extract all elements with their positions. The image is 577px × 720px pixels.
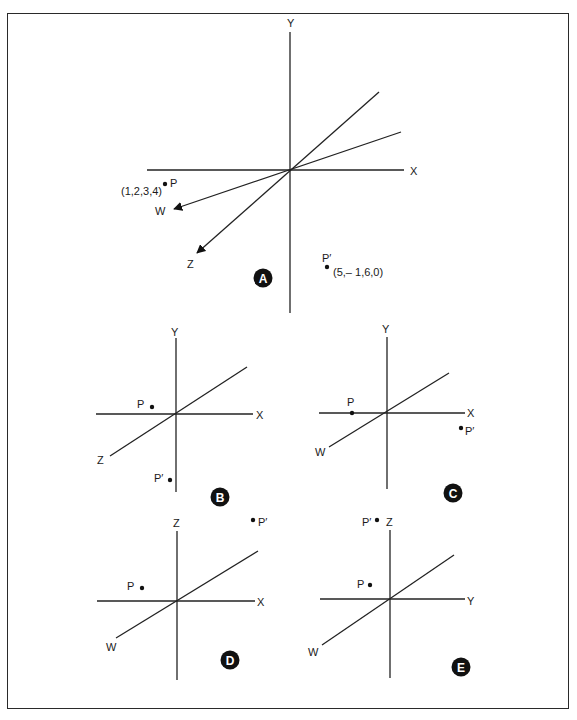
b-badge-letter: B	[216, 491, 225, 505]
c-point-p	[350, 411, 354, 415]
e-p-label: P	[357, 578, 364, 590]
panel-b: Y X Z P P′ B	[96, 326, 264, 507]
c-x-label: X	[467, 407, 475, 419]
e-badge-letter: E	[457, 661, 465, 675]
a-x-label: X	[410, 165, 418, 177]
b-z-axis	[110, 367, 247, 456]
a-p-prime-label: P′	[322, 252, 331, 264]
d-z-label: Z	[173, 517, 180, 529]
a-point-p	[163, 182, 167, 186]
b-x-label: X	[256, 409, 264, 421]
d-point-p-prime	[251, 518, 255, 522]
a-badge-letter: A	[259, 272, 268, 286]
d-badge-letter: D	[226, 654, 235, 668]
c-point-p-prime	[459, 426, 463, 430]
d-w-label: W	[106, 641, 117, 653]
c-y-label: Y	[382, 323, 390, 335]
b-point-p	[150, 405, 154, 409]
c-badge-letter: C	[449, 487, 458, 501]
a-point-p-prime	[325, 265, 329, 269]
d-p-prime-label: P′	[258, 516, 267, 528]
d-point-p	[140, 586, 144, 590]
panel-c: Y X W P P′ C	[315, 323, 475, 503]
d-p-label: P	[127, 580, 134, 592]
d-x-label: X	[257, 596, 265, 608]
c-p-prime-label: P′	[465, 425, 474, 437]
b-p-prime-label: P′	[154, 472, 163, 484]
e-p-prime-label: P′	[362, 516, 371, 528]
e-w-label: W	[308, 646, 319, 658]
b-p-label: P	[137, 398, 144, 410]
e-w-axis	[322, 555, 454, 645]
a-z-axis	[197, 92, 379, 253]
c-p-label: P	[347, 396, 354, 408]
a-w-label: W	[155, 205, 166, 217]
panel-e: Z Y W P P′ E	[308, 516, 475, 678]
b-point-p-prime	[168, 478, 172, 482]
e-z-label: Z	[386, 516, 393, 528]
d-w-axis	[116, 551, 258, 638]
c-w-label: W	[315, 446, 326, 458]
a-p-coords: (1,2,3,4)	[121, 185, 162, 197]
a-z-label: Z	[187, 258, 194, 270]
c-w-axis	[329, 373, 449, 447]
a-p-prime-coords: (5,– 1,6,0)	[333, 266, 383, 278]
panel-d: Z X W P P′ D	[97, 516, 267, 680]
e-point-p	[368, 583, 372, 587]
b-z-label: Z	[97, 454, 104, 466]
figure-canvas: Y X W Z P (1,2,3,4) P′ (5,– 1,6,0) A Y X…	[0, 0, 577, 720]
e-y-label: Y	[467, 595, 475, 607]
a-y-label: Y	[287, 17, 295, 29]
e-point-p-prime	[375, 518, 379, 522]
panel-a: Y X W Z P (1,2,3,4) P′ (5,– 1,6,0) A	[121, 17, 418, 313]
b-y-label: Y	[171, 326, 179, 338]
a-p-label: P	[170, 177, 177, 189]
